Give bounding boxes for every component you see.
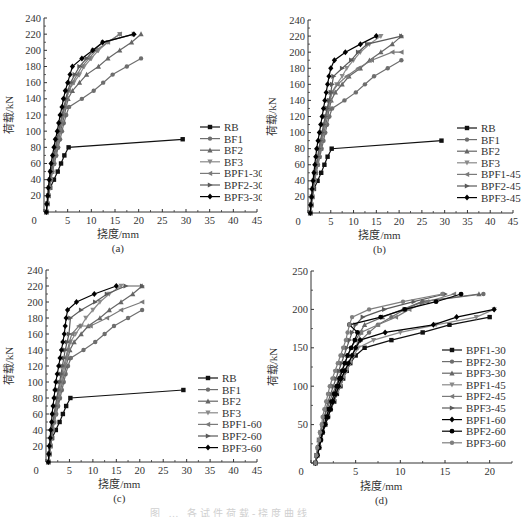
y-tick-label: 120: [25, 110, 41, 121]
y-tick-label: 200: [27, 297, 43, 308]
x-tick-label: 5: [353, 466, 358, 477]
chart-svg-b: 2040608010012014016018020022024005101520…: [262, 0, 525, 260]
x-tick-label: 30: [181, 215, 192, 226]
y-tick-label: 80: [33, 393, 44, 404]
y-tick-label: 220: [27, 281, 43, 292]
x-tick-label: 5: [65, 215, 70, 226]
y-tick-label: 180: [25, 61, 41, 72]
x-tick-label: 30: [439, 216, 450, 227]
series-rb: [44, 137, 185, 214]
legend-label: BPF1-30: [466, 344, 506, 356]
y-tick-label: 20: [33, 441, 44, 452]
x-axis-label: 挠度/mm: [97, 227, 140, 240]
x-tick-label: 25: [157, 215, 168, 226]
legend-item: RB: [198, 372, 237, 384]
legend-item: RB: [457, 122, 496, 134]
legend-item: BPF1-45: [457, 168, 521, 180]
x-tick-label: 10: [86, 215, 97, 226]
series-bpf2-60: [46, 283, 145, 464]
chart-svg-a: 2040608010012014016018020022024005101520…: [0, 0, 262, 260]
y-tick-label: 160: [289, 79, 305, 90]
y-tick-label: 120: [27, 361, 43, 372]
legend-item: BPF2-60: [442, 425, 506, 437]
x-tick-label: 45: [252, 465, 262, 476]
legend-label: BPF3-45: [481, 192, 521, 204]
legend-item: BPF3-45: [457, 192, 521, 204]
x-tick-label: 5: [67, 465, 72, 476]
x-tick-label: 10: [348, 216, 359, 227]
legend: RBBF1BF2BF3BPF1-30BPF2-30BPF3-30: [200, 121, 262, 203]
y-tick-label: 160: [27, 329, 43, 340]
legend-label: BPF3-60: [222, 442, 262, 454]
y-tick-label: 140: [289, 95, 305, 106]
y-tick-label: 150: [292, 342, 308, 353]
chart-panel-a: 2040608010012014016018020022024005101520…: [0, 0, 262, 260]
y-tick-label: 120: [289, 111, 305, 122]
panel-label: (b): [373, 243, 386, 256]
legend-item: BPF1-60: [442, 414, 506, 426]
x-tick-label: 35: [462, 216, 473, 227]
y-tick-label: 40: [31, 174, 42, 185]
y-tick-label: 200: [289, 47, 305, 58]
legend-item: BPF3-60: [442, 437, 506, 449]
y-tick-label: 60: [33, 409, 44, 420]
y-axis-label: 荷载/kN: [267, 348, 279, 387]
legend-label: BPF1-45: [481, 168, 521, 180]
legend-item: BF2: [457, 145, 500, 157]
y-tick-label: 180: [27, 313, 43, 324]
x-tick-label: 35: [204, 215, 215, 226]
legend: BPF1-30BPF2-30BPF3-30BPF1-45BPF2-45BPF3-…: [442, 344, 506, 449]
y-tick-label: 200: [25, 45, 41, 56]
legend-label: BPF3-30: [466, 367, 506, 379]
x-tick-label: 45: [508, 216, 519, 227]
legend-label: BPF3-60: [466, 437, 506, 449]
legend-item: BPF3-45: [442, 402, 506, 414]
y-tick-label: 240: [289, 15, 305, 26]
legend-label: BPF3-45: [466, 402, 506, 414]
legend-item: BPF3-30: [442, 367, 506, 379]
y-axis-label: 荷载/kN: [266, 97, 278, 136]
origin-label: 0: [295, 216, 300, 227]
chart-panel-d: 5010015020025005101520挠度/mm荷载/kN(d)BPF1-…: [262, 258, 525, 515]
x-tick-label: 20: [135, 465, 146, 476]
y-tick-label: 80: [295, 143, 306, 154]
y-tick-label: 60: [295, 159, 306, 170]
y-axis-label: 荷载/kN: [3, 96, 15, 135]
origin-label: 0: [31, 215, 36, 226]
legend-label: BPF3-30: [224, 191, 262, 203]
x-tick-label: 45: [252, 215, 262, 226]
series-rb: [308, 138, 444, 215]
x-tick-label: 10: [395, 466, 406, 477]
x-axis-label: 挠度/mm: [360, 479, 403, 492]
x-tick-label: 40: [485, 216, 496, 227]
legend-item: BF2: [198, 395, 241, 407]
y-tick-label: 200: [292, 304, 308, 315]
legend-label: BF1: [222, 384, 241, 396]
legend-label: BPF2-30: [466, 356, 506, 368]
legend-label: BPF1-60: [222, 418, 262, 430]
x-tick-label: 25: [158, 465, 169, 476]
legend-label: BF3: [222, 407, 241, 419]
legend-label: BPF2-60: [222, 430, 262, 442]
x-tick-label: 10: [88, 465, 99, 476]
x-axis-label: 挠度/mm: [358, 228, 401, 241]
chart-panel-b: 2040608010012014016018020022024005101520…: [262, 0, 525, 260]
panel-label: (a): [112, 242, 125, 255]
chart-panel-c: 2040608010012014016018020022024005101520…: [0, 258, 262, 515]
y-tick-label: 20: [295, 191, 306, 202]
x-tick-label: 5: [328, 216, 333, 227]
x-tick-label: 30: [181, 465, 192, 476]
legend-item: BPF1-30: [442, 344, 506, 356]
y-tick-label: 40: [33, 425, 44, 436]
legend-label: RB: [222, 372, 237, 384]
x-tick-label: 15: [371, 216, 382, 227]
legend-item: BF3: [457, 157, 500, 169]
y-tick-label: 160: [25, 77, 41, 88]
x-tick-label: 40: [228, 215, 239, 226]
legend-item: BPF1-30: [200, 167, 262, 179]
legend-label: BF2: [481, 145, 500, 157]
y-tick-label: 250: [292, 266, 308, 277]
chart-svg-c: 2040608010012014016018020022024005101520…: [0, 258, 262, 515]
origin-label: 0: [298, 466, 303, 477]
x-tick-label: 20: [394, 216, 405, 227]
